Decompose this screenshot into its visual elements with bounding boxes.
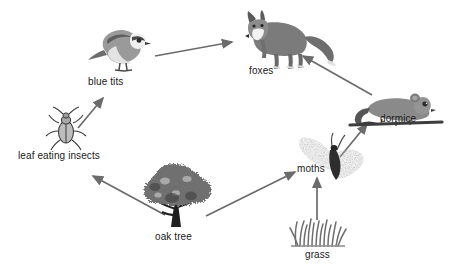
oak-tree-icon — [144, 164, 211, 227]
arrow-blue-tits-to-foxes — [155, 42, 232, 56]
grass-tuft-icon — [290, 219, 346, 246]
food-web-diagram — [0, 0, 450, 275]
label-dormice: dormice — [380, 113, 416, 124]
label-foxes: foxes — [249, 65, 273, 76]
arrow-dormice-to-foxes — [303, 56, 372, 95]
label-grass: grass — [305, 249, 330, 260]
beetle-icon — [46, 107, 86, 150]
label-oak-tree: oak tree — [155, 231, 192, 242]
fox-icon — [245, 10, 336, 69]
label-moths: moths — [297, 163, 325, 174]
blue-tit-bird-icon — [88, 30, 151, 71]
label-leaf-eating-insects: leaf eating insects — [18, 150, 100, 161]
label-blue-tits: blue tits — [88, 76, 123, 87]
arrow-oak-tree-to-moths — [206, 172, 295, 216]
arrow-insects-to-blue-tits — [78, 98, 103, 128]
